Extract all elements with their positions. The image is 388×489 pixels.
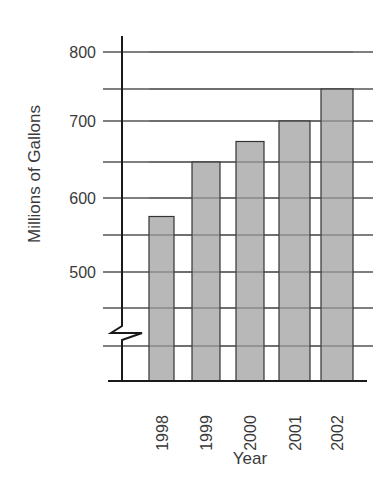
y-tick-label: 700 — [69, 113, 96, 130]
x-tick-label: 2000 — [242, 415, 259, 451]
x-tick-label: 2001 — [287, 415, 304, 451]
bar-chart: 50060070080019981999200020012002YearMill… — [0, 0, 388, 489]
bar-1998 — [149, 217, 174, 382]
y-axis-with-break — [111, 36, 142, 381]
x-tick-label: 2002 — [329, 415, 346, 451]
x-tick-label: 1998 — [154, 415, 171, 451]
x-axis-title: Year — [233, 449, 268, 468]
bar-2000 — [236, 142, 264, 382]
y-tick-label: 500 — [69, 264, 96, 281]
y-tick-label: 800 — [69, 44, 96, 61]
y-tick-label: 600 — [69, 190, 96, 207]
x-tick-label: 1999 — [198, 415, 215, 451]
y-axis-title: Millions of Gallons — [25, 105, 44, 243]
bar-2001 — [279, 121, 310, 381]
